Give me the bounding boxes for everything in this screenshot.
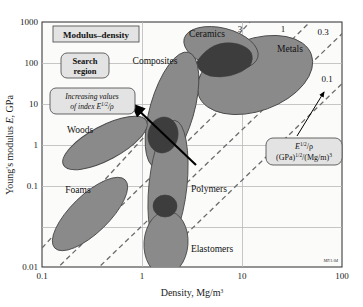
label-foams: Foams bbox=[65, 185, 91, 195]
increasing-index-line2: of index E1/2/ρ bbox=[70, 101, 114, 111]
y-tick-100: 100 bbox=[25, 58, 39, 68]
label-metals: Metals bbox=[277, 44, 303, 54]
guide-label-0.1: 0.1 bbox=[321, 74, 332, 84]
label-polymers: Polymers bbox=[191, 184, 227, 194]
watermark-label: MFA 04 bbox=[322, 258, 338, 263]
increasing-index-line1: Increasing values bbox=[64, 92, 119, 101]
y-axis-title: Young's modulus E, GPa bbox=[4, 95, 15, 195]
x-tick-100: 100 bbox=[335, 271, 349, 281]
x-tick-0.1: 0.1 bbox=[36, 271, 47, 281]
ashby-chart-root: 1000 100 10 1 0.1 0.01 0.1 1 10 100 Dens… bbox=[0, 0, 363, 307]
guide-label-0.3: 0.3 bbox=[317, 27, 329, 37]
guide-label-3: 3 bbox=[238, 24, 243, 34]
title-box-label: Modulus–density bbox=[63, 30, 130, 40]
search-region-box[interactable]: Search region bbox=[61, 53, 109, 78]
x-tick-10: 10 bbox=[238, 271, 248, 281]
search-region-label-line2: region bbox=[74, 66, 97, 76]
label-elastomers: Elastomers bbox=[191, 244, 234, 254]
index-units-line2: (GPa)1/2/(Mg/m)3 bbox=[276, 152, 332, 162]
guide-label-1: 1 bbox=[281, 24, 286, 34]
blob-overlap-polymers-elastomers bbox=[153, 195, 177, 217]
modulus-density-chart: 1000 100 10 1 0.1 0.01 0.1 1 10 100 Dens… bbox=[0, 0, 363, 307]
search-region-label-line1: Search bbox=[73, 56, 98, 66]
y-tick-10: 10 bbox=[29, 99, 39, 109]
y-tick-1000: 1000 bbox=[20, 17, 39, 27]
label-woods: Woods bbox=[67, 125, 93, 135]
y-tick-1: 1 bbox=[34, 140, 39, 150]
y-tick-0.1: 0.1 bbox=[27, 181, 38, 191]
label-composites: Composites bbox=[133, 56, 178, 66]
label-ceramics: Ceramics bbox=[189, 29, 225, 39]
index-units-callout-box: E1/2/ρ (GPa)1/2/(Mg/m)3 bbox=[266, 138, 342, 165]
x-axis-title: Density, Mg/m3 bbox=[161, 287, 224, 298]
x-tick-1: 1 bbox=[140, 271, 145, 281]
title-box: Modulus–density bbox=[53, 26, 139, 42]
increasing-index-box: Increasing values of index E1/2/ρ bbox=[50, 88, 135, 114]
